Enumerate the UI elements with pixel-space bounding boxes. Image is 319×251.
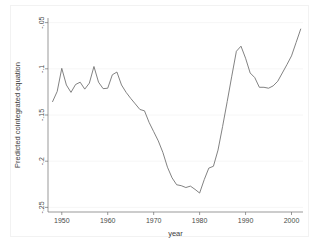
x-axis-ticks: 195019601970198019902000: [54, 212, 299, 224]
y-tick-label-0: -.05: [38, 16, 45, 28]
y-tick-label-2: -.15: [38, 109, 45, 121]
x-tick-label-1: 1960: [100, 217, 116, 224]
x-tick-label-2: 1970: [146, 217, 162, 224]
y-tick-label-3: -.2: [38, 157, 45, 165]
line-chart: -.05-.1-.15-.2-.25 195019601970198019902…: [0, 0, 319, 251]
y-tick-label-4: -.25: [38, 201, 45, 213]
y-axis-title: Predicted cointegrated equation: [13, 62, 22, 168]
chart-figure: -.05-.1-.15-.2-.25 195019601970198019902…: [0, 0, 319, 251]
x-axis-title: year: [168, 229, 183, 238]
x-tick-label-5: 2000: [284, 217, 300, 224]
y-tick-label-1: -.1: [38, 65, 45, 73]
series-line-predicted-cointegrated-equation: [53, 29, 301, 193]
x-tick-label-4: 1990: [238, 217, 254, 224]
x-tick-label-0: 1950: [54, 217, 70, 224]
gridlines-group: [48, 23, 303, 208]
y-axis-ticks: -.05-.1-.15-.2-.25: [38, 16, 48, 213]
x-tick-label-3: 1980: [192, 217, 208, 224]
